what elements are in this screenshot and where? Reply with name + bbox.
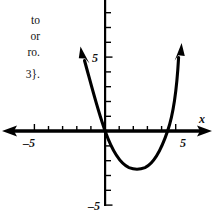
y-axis-positive-five-label: 5 (92, 51, 98, 65)
y-axis (105, 0, 112, 206)
parabola-figure: –5 5 5 –5 x (0, 0, 214, 214)
y-axis-ticks (105, 13, 112, 205)
x-axis-label: x (198, 112, 205, 126)
x-axis-negative-five-label: –5 (22, 136, 35, 150)
x-axis-positive-five-label: 5 (180, 136, 186, 150)
y-axis-negative-five-label: –5 (87, 199, 100, 213)
figure-page: to or ro. 3}. (0, 0, 214, 214)
